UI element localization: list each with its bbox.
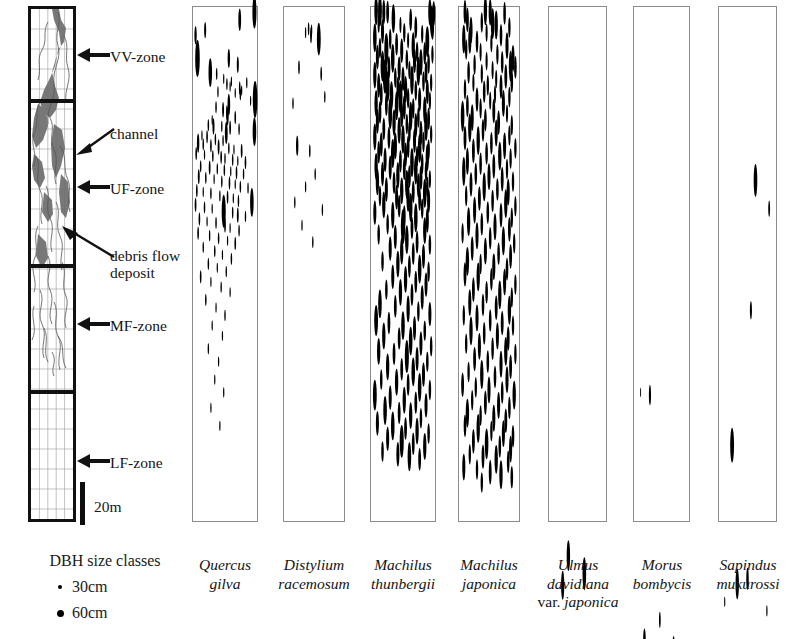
stem-point: [228, 49, 230, 69]
stem-point: [238, 195, 240, 207]
stem-point: [398, 402, 401, 425]
stem-point: [233, 193, 234, 203]
stem-point: [422, 132, 425, 153]
stem-point: [495, 11, 498, 40]
stem-point: [200, 160, 202, 172]
stem-point: [373, 62, 376, 89]
stem-point: [235, 88, 236, 98]
species-panel-machilus-thunbergii: [370, 6, 436, 522]
stem-point: [504, 189, 507, 218]
stem-point: [480, 360, 483, 389]
stem-point: [508, 397, 511, 420]
stem-point: [481, 64, 483, 84]
species-var-epithet: japonica: [564, 593, 618, 610]
stem-point: [427, 423, 430, 444]
stem-point: [414, 16, 417, 39]
stem-point: [403, 23, 405, 43]
stem-point: [503, 132, 506, 159]
stem-point: [221, 176, 223, 188]
stem-point: [430, 336, 433, 357]
stem-point: [464, 415, 467, 438]
stem-point: [229, 223, 230, 233]
stem-point: [512, 315, 514, 336]
stem-point: [224, 218, 226, 232]
stem-point: [234, 237, 236, 250]
stem-point: [317, 23, 321, 56]
stem-point: [506, 159, 508, 180]
stem-point: [401, 311, 405, 340]
stem-point: [400, 103, 403, 128]
stem-point: [486, 52, 488, 71]
stem-point: [487, 377, 490, 404]
stem-point: [500, 24, 503, 47]
stem-point: [480, 43, 482, 62]
stem-point: [406, 114, 409, 135]
stem-point: [514, 344, 516, 365]
stem-point: [496, 44, 498, 65]
stem-point: [407, 373, 410, 396]
stem-point: [246, 77, 247, 88]
stem-point: [465, 39, 467, 60]
stem-point: [485, 142, 488, 165]
lf-zone-arrow-icon: [76, 450, 112, 472]
stem-point: [200, 270, 202, 283]
stem-point: [486, 350, 489, 373]
stem-point: [424, 112, 428, 141]
stem-point: [510, 70, 513, 93]
stem-point: [298, 60, 300, 74]
stem-point: [214, 245, 216, 257]
stem-point: [229, 176, 231, 189]
stem-point: [222, 331, 223, 341]
stem-point: [479, 98, 481, 119]
stem-point: [490, 421, 492, 442]
stem-point: [509, 148, 511, 169]
stem-point: [475, 222, 478, 249]
stem-point: [412, 242, 415, 265]
stem-point: [206, 216, 207, 226]
species-caption-machilus-thunbergii: Machilus thunbergii: [358, 556, 448, 593]
stem-point: [486, 201, 489, 224]
stem-point: [492, 154, 495, 179]
stem-point: [426, 351, 429, 372]
stem-point: [492, 405, 495, 432]
stem-point: [472, 139, 475, 164]
stem-point: [426, 79, 429, 104]
stem-point: [373, 200, 376, 225]
stem-point: [481, 12, 483, 33]
stem-point: [238, 123, 240, 135]
stem-point: [396, 251, 399, 278]
stem-point: [493, 213, 496, 240]
stem-point: [377, 73, 380, 98]
species-caption-morus-bombycis: Morus bombycis: [618, 556, 706, 593]
stem-point: [250, 96, 251, 106]
stem-point: [485, 428, 489, 459]
stem-point: [475, 305, 478, 332]
stem-point: [215, 133, 217, 145]
stem-point: [377, 338, 380, 365]
species-panel-quercus-gilva: [192, 6, 258, 522]
stem-point: [204, 150, 205, 160]
stem-point: [208, 58, 212, 87]
stem-point: [296, 136, 298, 157]
stem-point: [230, 166, 231, 176]
stem-point: [389, 385, 392, 410]
stem-point: [490, 132, 493, 155]
stem-point: [494, 366, 497, 389]
stem-point: [385, 93, 388, 116]
stem-point: [245, 211, 246, 222]
stem-point: [464, 79, 466, 100]
stem-point: [403, 158, 406, 181]
stem-point: [479, 152, 482, 175]
stem-point: [203, 187, 204, 197]
stem-point: [399, 150, 402, 173]
stem-point: [217, 263, 218, 273]
stem-point: [503, 2, 506, 25]
stem-point: [467, 362, 469, 383]
stem-point: [491, 190, 494, 213]
stem-point: [513, 233, 515, 254]
stem-point: [210, 403, 211, 413]
stem-point: [396, 442, 399, 467]
stem-point: [514, 274, 516, 295]
stem-point: [210, 277, 211, 287]
species-panel-ulmus-davidiana: [548, 6, 607, 522]
